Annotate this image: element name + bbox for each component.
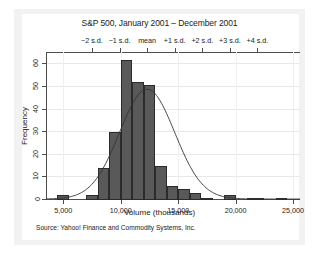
y-tick — [42, 131, 46, 132]
source-note: Source: Yahoo! Finance and Commodity Sys… — [36, 224, 196, 231]
x-tick — [121, 200, 122, 204]
x-tick-label: 5,000 — [54, 206, 72, 215]
x-tick-label: 20,000 — [225, 206, 247, 215]
y-tick-label: 0 — [35, 195, 39, 204]
x-axis-title: Volume (thousands) — [0, 208, 319, 217]
y-tick — [42, 86, 46, 87]
y-tick — [42, 63, 46, 64]
sd-axis-label: +1 s.d. — [164, 36, 186, 45]
x-tick — [236, 200, 237, 204]
chart-screenshot: S&P 500, January 2001 – December 2001 −2… — [0, 0, 319, 254]
y-tick — [42, 199, 46, 200]
y-axis-title: Frequency — [20, 107, 29, 145]
sd-axis-label: −1 s.d. — [109, 36, 131, 45]
x-tick-label: 10,000 — [110, 206, 132, 215]
x-tick-label: 25,000 — [282, 206, 304, 215]
plot-area — [46, 52, 300, 200]
y-tick-label: 30 — [31, 127, 39, 136]
x-tick — [178, 200, 179, 204]
sd-axis-label: +3 s.d. — [219, 36, 241, 45]
sd-axis-label: +4 s.d. — [247, 36, 269, 45]
x-tick — [293, 200, 294, 204]
sd-axis-label: mean — [138, 36, 156, 45]
x-tick — [63, 200, 64, 204]
normal-curve — [46, 52, 300, 200]
y-tick — [42, 154, 46, 155]
y-tick — [42, 109, 46, 110]
chart-title: S&P 500, January 2001 – December 2001 — [0, 18, 319, 28]
sd-axis-labels: −2 s.d.−1 s.d.mean+1 s.d.+2 s.d.+3 s.d.+… — [0, 36, 319, 48]
y-tick-label: 50 — [31, 81, 39, 90]
y-tick-label: 10 — [31, 172, 39, 181]
sd-axis-label: −2 s.d. — [81, 36, 103, 45]
x-tick-label: 15,000 — [167, 206, 189, 215]
y-tick-label: 40 — [31, 104, 39, 113]
y-tick — [42, 176, 46, 177]
sd-axis-label: +2 s.d. — [191, 36, 213, 45]
y-tick-label: 20 — [31, 149, 39, 158]
y-tick-label: 60 — [31, 59, 39, 68]
